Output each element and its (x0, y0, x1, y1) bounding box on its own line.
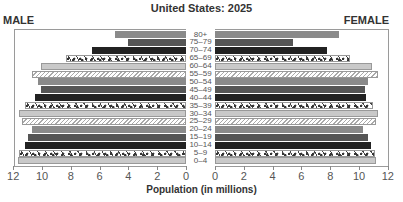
age-group-label: 0–4 (186, 157, 215, 165)
male-label: MALE (3, 14, 34, 26)
female-tick-label: 8 (320, 170, 340, 182)
female-bar-7 (215, 86, 365, 93)
male-tick-label: 12 (3, 170, 23, 182)
male-tick-label: 0 (176, 170, 196, 182)
female-bar-15 (215, 150, 375, 157)
male-tick-label: 4 (118, 170, 138, 182)
female-bar-14 (215, 142, 371, 149)
female-tick-label: 10 (349, 170, 369, 182)
male-bar-8 (35, 94, 186, 101)
male-bar-4 (41, 63, 186, 70)
female-bar-6 (215, 78, 368, 85)
female-tick-label: 12 (378, 170, 398, 182)
male-bar-10 (19, 110, 186, 117)
male-tick-label: 2 (147, 170, 167, 182)
male-bar-5 (32, 71, 186, 78)
male-bar-3 (66, 55, 186, 62)
male-bar-14 (25, 142, 186, 149)
male-bar-9 (25, 102, 186, 109)
female-tick-label: 4 (263, 170, 283, 182)
female-bar-16 (215, 157, 376, 164)
female-tick-label: 0 (205, 170, 225, 182)
male-bar-6 (38, 78, 186, 85)
male-bar-2 (92, 47, 186, 54)
female-tick-label: 2 (234, 170, 254, 182)
female-bar-9 (215, 102, 373, 109)
male-tick-label: 6 (90, 170, 110, 182)
male-bar-7 (41, 86, 186, 93)
female-bar-3 (215, 55, 350, 62)
female-bar-0 (215, 31, 339, 38)
female-bar-4 (215, 63, 372, 70)
female-bar-2 (215, 47, 327, 54)
female-bar-10 (215, 110, 378, 117)
female-label: FEMALE (344, 14, 389, 26)
male-bar-11 (22, 118, 186, 125)
chart-title: United States: 2025 (0, 2, 403, 14)
female-tick-label: 6 (291, 170, 311, 182)
male-bar-0 (115, 31, 186, 38)
male-tick-label: 10 (32, 170, 52, 182)
female-bar-11 (215, 118, 376, 125)
female-bar-5 (215, 71, 378, 78)
female-bar-12 (215, 126, 363, 133)
male-bar-13 (28, 134, 186, 141)
male-tick-label: 8 (61, 170, 81, 182)
female-bar-13 (215, 134, 368, 141)
male-bar-16 (18, 157, 186, 164)
female-bar-1 (215, 39, 293, 46)
male-bar-1 (128, 39, 186, 46)
female-bar-8 (215, 94, 366, 101)
male-bar-12 (32, 126, 186, 133)
x-axis-label: Population (in millions) (0, 184, 403, 195)
male-bar-15 (19, 150, 186, 157)
